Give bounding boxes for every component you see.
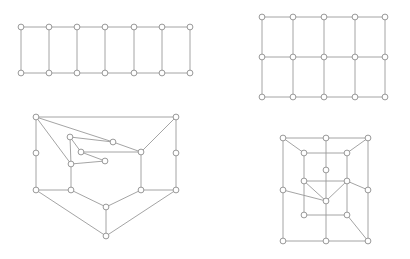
graph-figure-svg — [0, 0, 410, 259]
graph-node — [173, 150, 179, 156]
graph-node — [68, 187, 74, 193]
graph-node — [365, 135, 371, 141]
graph-node — [301, 178, 307, 184]
graph-nodes — [18, 24, 193, 76]
graph-node — [321, 14, 327, 20]
graph-edge — [71, 190, 106, 207]
graph-node — [352, 14, 358, 20]
graph-node — [74, 24, 80, 30]
figure-canvas — [0, 0, 410, 259]
graph-node — [321, 94, 327, 100]
graph-node — [159, 24, 165, 30]
graph-node — [323, 238, 329, 244]
graph-node — [301, 212, 307, 218]
graph-node — [365, 187, 371, 193]
graph-edges — [21, 27, 190, 73]
graph-node — [103, 204, 109, 210]
graph-node — [102, 158, 108, 164]
graph-panel-nested-grid-graph — [280, 135, 371, 244]
graph-node — [110, 139, 116, 145]
graph-node — [46, 24, 52, 30]
graph-node — [321, 54, 327, 60]
graph-node — [187, 70, 193, 76]
graph-node — [33, 114, 39, 120]
graph-edge — [283, 138, 304, 153]
graph-node — [33, 150, 39, 156]
graph-node — [173, 114, 179, 120]
graph-edge — [106, 190, 141, 207]
graph-edge — [70, 137, 71, 164]
graph-node — [323, 167, 329, 173]
graph-node — [67, 134, 73, 140]
graph-edge — [36, 117, 113, 142]
graph-edge — [81, 152, 105, 161]
graph-node — [352, 54, 358, 60]
graph-node — [382, 54, 388, 60]
graph-node — [173, 187, 179, 193]
graph-node — [382, 94, 388, 100]
graph-node — [102, 70, 108, 76]
graph-node — [280, 187, 286, 193]
graph-node — [131, 70, 137, 76]
graph-node — [18, 70, 24, 76]
graph-edge — [141, 117, 176, 152]
graph-node — [323, 198, 329, 204]
graph-node — [344, 212, 350, 218]
graph-node — [290, 94, 296, 100]
graph-edge — [113, 142, 141, 152]
graph-node — [280, 135, 286, 141]
graph-edges — [36, 117, 176, 236]
graph-node — [259, 54, 265, 60]
graph-edge — [347, 181, 368, 190]
graph-node — [18, 24, 24, 30]
graph-node — [344, 178, 350, 184]
graph-node — [290, 54, 296, 60]
graph-node — [259, 94, 265, 100]
graph-node — [187, 24, 193, 30]
graph-edge — [347, 138, 368, 153]
graph-panel-ladder-graph — [18, 24, 193, 76]
graph-edge — [36, 190, 106, 236]
graph-panel-grid-graph — [259, 14, 388, 100]
graph-edge — [106, 190, 176, 236]
graph-node — [68, 161, 74, 167]
graph-node — [74, 70, 80, 76]
graph-edge — [347, 215, 368, 241]
graph-edges — [283, 138, 368, 241]
graph-node — [138, 187, 144, 193]
graph-node — [344, 150, 350, 156]
graph-node — [46, 70, 52, 76]
graph-edge — [36, 117, 71, 164]
graph-node — [33, 187, 39, 193]
graph-node — [323, 135, 329, 141]
graph-edge — [71, 161, 105, 164]
graph-node — [382, 14, 388, 20]
graph-edge — [326, 181, 347, 201]
graph-node — [102, 24, 108, 30]
graph-node — [352, 94, 358, 100]
graph-node — [301, 150, 307, 156]
graph-node — [159, 70, 165, 76]
graph-node — [280, 238, 286, 244]
graph-node — [78, 149, 84, 155]
graph-node — [290, 14, 296, 20]
graph-node — [138, 149, 144, 155]
graph-node — [259, 14, 265, 20]
graph-panel-planar-cubic-graph — [33, 114, 179, 239]
graph-node — [131, 24, 137, 30]
graph-node — [365, 238, 371, 244]
graph-node — [103, 233, 109, 239]
